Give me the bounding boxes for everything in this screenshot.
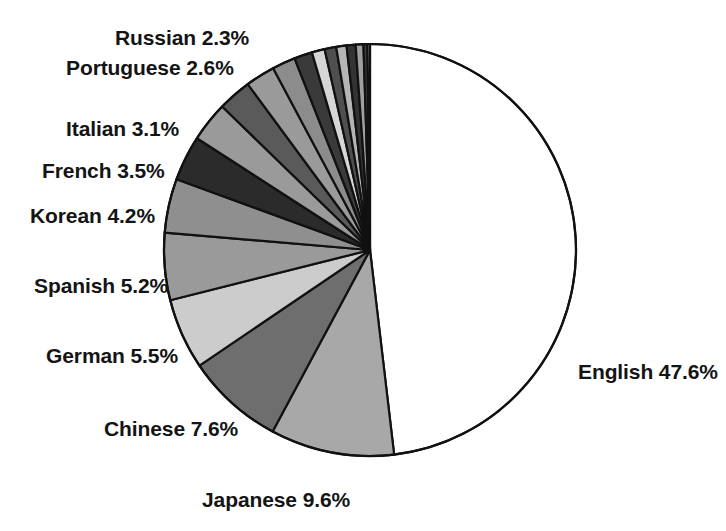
pie-label-portuguese: Portuguese 2.6% (66, 57, 234, 78)
pie-label-spanish: Spanish 5.2% (34, 275, 168, 296)
pie-label-chinese: Chinese 7.6% (104, 418, 238, 439)
pie-label-italian: Italian 3.1% (66, 118, 179, 139)
pie-label-japanese: Japanese 9.6% (202, 489, 350, 510)
pie-chart: English 47.6%Japanese 9.6%Chinese 7.6%Ge… (0, 0, 726, 531)
pie-label-french: French 3.5% (42, 160, 165, 181)
pie-label-english: English 47.6% (578, 361, 718, 382)
pie-slice-english (370, 44, 576, 455)
pie-label-russian: Russian 2.3% (115, 27, 249, 48)
pie-label-korean: Korean 4.2% (30, 205, 155, 226)
pie-chart-canvas (0, 0, 726, 531)
pie-label-german: German 5.5% (46, 345, 178, 366)
